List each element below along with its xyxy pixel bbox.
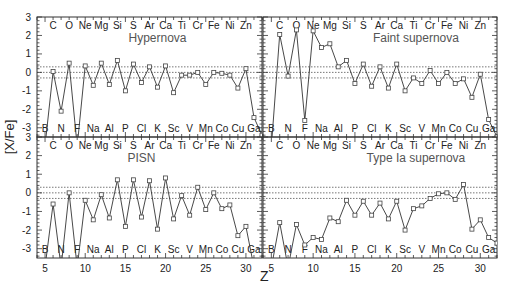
element-label: Sc	[399, 123, 411, 134]
y-tick-label: -1	[22, 85, 31, 96]
element-label: Ne	[79, 140, 92, 151]
data-point	[83, 64, 87, 68]
data-point	[462, 182, 466, 186]
data-point	[420, 204, 424, 208]
data-point	[437, 192, 441, 196]
data-point	[420, 81, 424, 85]
data-point	[361, 199, 365, 203]
element-label: Na	[315, 123, 328, 134]
element-label: Co	[449, 244, 462, 255]
data-point	[345, 58, 349, 62]
data-point	[437, 81, 441, 85]
x-tick-label: 25	[200, 263, 212, 274]
data-point	[59, 109, 63, 113]
x-tick-label: 10	[308, 263, 320, 274]
element-label: Mg	[323, 140, 337, 151]
element-label: O	[293, 140, 301, 151]
data-point	[294, 222, 298, 226]
element-label: C	[276, 20, 283, 31]
element-label: Al	[334, 244, 343, 255]
y-tick-label: 0	[25, 67, 31, 78]
data-point	[478, 72, 482, 76]
data-point	[115, 58, 119, 62]
element-label: Co	[449, 123, 462, 134]
element-label: Si	[342, 140, 351, 151]
element-label: C	[49, 20, 56, 31]
data-point	[470, 227, 474, 231]
data-point	[361, 62, 365, 66]
element-label: Cu	[231, 123, 244, 134]
element-label: Co	[215, 123, 228, 134]
element-label: Mg	[94, 140, 108, 151]
y-tick-label: 2	[25, 150, 31, 161]
data-point	[370, 213, 374, 217]
data-point	[172, 91, 176, 95]
data-point	[148, 179, 152, 183]
y-tick-label: -2	[22, 225, 31, 236]
data-point	[411, 207, 415, 211]
element-label: Ar	[145, 20, 156, 31]
panel-title: PISN	[127, 151, 155, 165]
panel-title: Hypernova	[129, 31, 187, 45]
element-label: Ti	[409, 20, 417, 31]
x-tick-label: 25	[433, 263, 445, 274]
element-label: Ne	[79, 20, 92, 31]
data-point	[236, 234, 240, 238]
data-point	[51, 69, 55, 73]
y-tick-label: 3	[25, 132, 31, 143]
y-tick-label: -2	[22, 104, 31, 115]
abundance-chart: -3-2-10123CONeMgSiSArCaTiCrFeNiZnBNFNaAl…	[0, 0, 511, 292]
data-point	[244, 224, 248, 228]
element-label: Cr	[192, 20, 203, 31]
element-label: Zn	[240, 20, 252, 31]
element-label: S	[360, 20, 367, 31]
x-tick-label: 5	[269, 263, 275, 274]
data-point	[139, 81, 143, 85]
data-point	[188, 213, 192, 217]
data-point	[148, 65, 152, 69]
element-label: Na	[315, 244, 328, 255]
data-point	[487, 236, 491, 240]
data-point	[204, 208, 208, 212]
element-label: C	[49, 140, 56, 151]
element-label: Ar	[375, 140, 386, 151]
data-point	[180, 194, 184, 198]
x-tick-label: 15	[349, 263, 361, 274]
y-tick-label: 1	[25, 48, 31, 59]
element-label: Cr	[192, 140, 203, 151]
data-point	[139, 215, 143, 219]
panel-title: Faint supernova	[373, 31, 459, 45]
element-label: Si	[113, 20, 122, 31]
element-label: Ga	[482, 244, 496, 255]
element-label: Co	[215, 244, 228, 255]
data-point	[445, 70, 449, 74]
data-point	[353, 81, 357, 85]
element-label: Zn	[474, 20, 486, 31]
data-point	[453, 81, 457, 85]
element-label: Sc	[168, 244, 180, 255]
element-label: Ne	[307, 140, 320, 151]
x-tick-label: 10	[80, 263, 92, 274]
element-label: Na	[87, 123, 100, 134]
element-label: K	[154, 123, 161, 134]
data-point	[353, 213, 357, 217]
panel-pisn: -3-2-1012351015202530CONeMgSiSArCaTiCrFe…	[22, 132, 262, 275]
data-point	[180, 73, 184, 77]
element-label: Ar	[145, 140, 156, 151]
element-label: Zn	[240, 140, 252, 151]
element-label: Ni	[459, 140, 468, 151]
element-label: Ca	[159, 140, 172, 151]
data-point	[196, 185, 200, 189]
data-point	[91, 218, 95, 222]
y-axis-title: [X/Fe]	[2, 120, 17, 155]
element-label: Na	[87, 244, 100, 255]
y-tick-label: -1	[22, 206, 31, 217]
element-label: V	[186, 123, 193, 134]
data-point	[220, 71, 224, 75]
data-point	[236, 86, 240, 90]
element-label: K	[385, 244, 392, 255]
element-label: Si	[342, 20, 351, 31]
data-point	[91, 83, 95, 87]
element-label: O	[65, 20, 73, 31]
element-label: Cl	[367, 244, 376, 255]
